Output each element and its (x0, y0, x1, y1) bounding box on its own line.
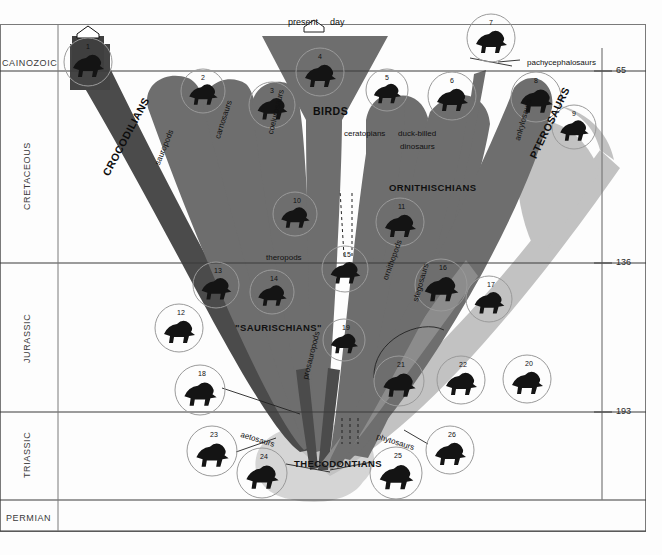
axis-tick-136: 136 (616, 257, 631, 267)
clade-label-saurischians: "SAURISCHIANS" (235, 322, 322, 333)
group-label-ceratopians: ceratopians (344, 129, 385, 138)
specimen-12[interactable]: 12 (155, 304, 203, 352)
axis-tick-193: 193 (616, 406, 631, 416)
group-label-duckbilled: duck-billed (398, 129, 436, 138)
axis-tick-65: 65 (616, 65, 626, 75)
specimen-number-3: 3 (270, 87, 274, 94)
crocodilian-silhouette (512, 372, 543, 394)
clade-label-birds: BIRDS (313, 105, 348, 117)
phylogeny-canvas: 1234567891011121314151617181920212223242… (0, 0, 662, 555)
specimen-number-20: 20 (525, 360, 533, 367)
specimen-number-13: 13 (214, 267, 222, 274)
day-label: day (330, 17, 345, 27)
specimen-26[interactable]: 26 (426, 426, 474, 474)
specimen-number-8: 8 (534, 77, 538, 84)
prosauropod-hand-silhouette (184, 382, 216, 405)
specimen-number-10: 10 (293, 197, 301, 204)
specimen-25[interactable]: 25 (370, 447, 422, 499)
specimen-number-25: 25 (394, 452, 402, 459)
specimen-number-12: 12 (177, 309, 185, 316)
specimen-number-17: 17 (487, 281, 495, 288)
era-label-jurassic: JURASSIC (22, 314, 32, 363)
specimen-number-1: 1 (86, 43, 90, 50)
specimen-number-15: 15 (343, 251, 351, 258)
specimen-number-9: 9 (572, 110, 576, 117)
clade-label-ornithischians: ORNITHISCHIANS (389, 182, 476, 193)
specimen-number-2: 2 (201, 74, 205, 81)
plesiosaur-silhouette (164, 321, 195, 343)
phytosaur-silhouette (380, 465, 414, 489)
specimen-number-11: 11 (398, 203, 405, 210)
era-label-triassic: TRIASSIC (22, 432, 32, 478)
specimen-number-23: 23 (210, 431, 218, 438)
phylogeny-figure: 1234567891011121314151617181920212223242… (0, 0, 662, 555)
specimen-number-18: 18 (198, 370, 206, 377)
present-label: present (288, 17, 318, 27)
specimen-number-21: 21 (397, 361, 405, 368)
pachycephalosaur-head-silhouette (476, 31, 507, 53)
specimen-number-26: 26 (448, 431, 456, 438)
specimen-number-7: 7 (489, 19, 493, 26)
specimen-number-5: 5 (385, 74, 389, 81)
group-label-dinosaurs: dinosaurs (400, 142, 435, 151)
specimen-number-14: 14 (270, 275, 278, 282)
clade-label-thecodontians: THECODONTIANS (294, 458, 382, 469)
era-label-permian: PERMIAN (6, 513, 51, 523)
aetosaur-silhouette (196, 443, 228, 466)
specimen-7[interactable]: 7 (467, 14, 515, 62)
specimen-23[interactable]: 23 (187, 426, 237, 476)
group-label-pachycephalosaurs: pachycephalosaurs (527, 58, 596, 67)
specimen-number-16: 16 (439, 264, 447, 271)
specimen-number-19: 19 (342, 324, 350, 331)
phytosaur2-silhouette (435, 443, 466, 465)
era-label-cretaceous: CRETACEOUS (22, 142, 32, 210)
specimen-number-22: 22 (459, 361, 467, 368)
specimen-18[interactable]: 18 (175, 365, 225, 415)
specimen-number-4: 4 (318, 53, 322, 60)
era-label-cainozoic: CAINOZOIC (2, 58, 57, 68)
specimen-number-24: 24 (260, 453, 268, 460)
specimen-20[interactable]: 20 (503, 355, 551, 403)
specimen-number-6: 6 (450, 77, 454, 84)
time-scale (594, 48, 612, 500)
group-label-theropods: theropods (266, 253, 302, 262)
